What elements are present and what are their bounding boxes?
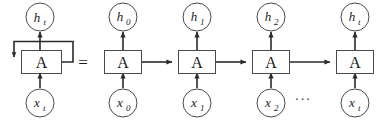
- folded-input-label: x: [33, 95, 40, 110]
- step-t-output-label: h: [349, 9, 356, 24]
- step-0-output-label: h: [117, 9, 124, 24]
- step-2-output-subscript: 2: [274, 17, 279, 27]
- step-0-input-subscript: 0: [126, 103, 131, 113]
- unrolled-step-t-group: A h t x t: [337, 3, 374, 117]
- step-1-input-label: x: [190, 95, 197, 110]
- step-1-input-node: [183, 89, 211, 117]
- folded-cell-label: A: [36, 54, 48, 71]
- rnn-unrolled-diagram: A h t x t = A h 0 x 0: [0, 0, 378, 121]
- step-1-input-subscript: 1: [200, 103, 205, 113]
- unrolled-step-2-group: A h 2 x 2: [253, 3, 331, 117]
- sequence-ellipsis: ···: [295, 92, 312, 107]
- unrolled-step-1-group: A h 1 x 1: [179, 3, 247, 117]
- unrolled-step-0-group: A h 0 x 0: [105, 3, 173, 117]
- folded-rnn-group: A h t x t: [14, 3, 73, 117]
- equals-sign: =: [78, 53, 88, 72]
- step-0-cell-label: A: [117, 54, 129, 71]
- diagram-canvas: A h t x t = A h 0 x 0: [0, 0, 378, 121]
- step-2-cell-label: A: [265, 54, 277, 71]
- step-2-output-label: h: [265, 9, 272, 24]
- folded-input-node: [26, 89, 54, 117]
- step-0-output-subscript: 0: [126, 17, 131, 27]
- step-0-input-label: x: [116, 95, 123, 110]
- step-t-input-node: [341, 89, 369, 117]
- step-0-input-node: [109, 89, 137, 117]
- step-2-input-node: [257, 89, 285, 117]
- step-t-cell-label: A: [349, 54, 361, 71]
- folded-output-label: h: [34, 10, 41, 25]
- step-1-cell-label: A: [191, 54, 203, 71]
- step-1-output-label: h: [191, 9, 198, 24]
- step-1-output-subscript: 1: [200, 17, 205, 27]
- step-2-input-label: x: [264, 95, 271, 110]
- step-t-input-label: x: [348, 95, 355, 110]
- step-2-input-subscript: 2: [274, 103, 279, 113]
